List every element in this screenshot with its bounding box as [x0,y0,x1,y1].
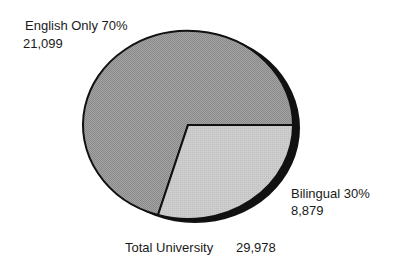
total-value: 29,978 [236,240,276,256]
bilingual-percent-label: Bilingual 30% [291,186,370,202]
total-label: Total University [125,240,213,256]
bilingual-value-label: 8,879 [291,203,324,219]
english-only-percent-label: English Only 70% [25,18,128,34]
english-only-value-label: 21,099 [23,36,63,52]
